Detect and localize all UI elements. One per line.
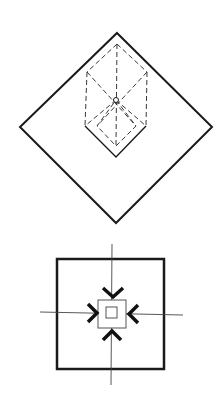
dashed-box-outline xyxy=(85,44,147,146)
box-bottom-edge xyxy=(85,126,146,157)
diagram-canvas xyxy=(0,0,222,405)
middle-square xyxy=(98,300,126,328)
chevron-down-icon xyxy=(103,288,123,297)
center-point xyxy=(114,98,119,103)
converging-arrows-figure xyxy=(40,244,183,385)
chevron-up-icon xyxy=(103,331,121,340)
isometric-box-figure xyxy=(20,33,212,223)
